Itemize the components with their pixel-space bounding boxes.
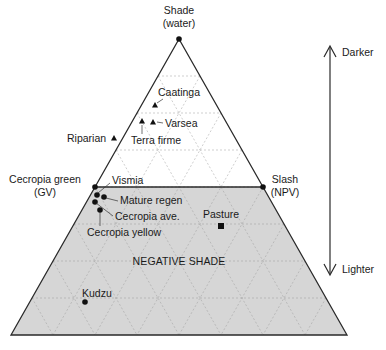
point-label: Pasture [203, 208, 239, 220]
point-label: Cecropia ave. [115, 210, 180, 222]
circle-marker-icon [101, 194, 107, 200]
point-label: Vismia [112, 174, 143, 186]
vertex-dot-icon [260, 184, 266, 190]
vertex-label: (NPV) [271, 186, 300, 198]
circle-marker-icon [82, 299, 88, 305]
circle-marker-icon [97, 207, 103, 213]
vertex-gv: Cecropia green(GV) [9, 173, 98, 198]
triangle-marker-icon [139, 118, 145, 124]
ternary-diagram: NEGATIVE SHADE Shade(water)Cecropia gree… [0, 0, 386, 350]
point-riparian: Riparian [67, 132, 117, 144]
point-label: Cecropia yellow [87, 226, 162, 238]
vertex-label: (GV) [34, 186, 56, 198]
vertex-shade: Shade(water) [163, 4, 196, 42]
darker-label: Darker [342, 46, 374, 58]
vertex-label: Cecropia green [9, 173, 81, 185]
leader-line [157, 99, 163, 103]
vertex-dot-icon [92, 184, 98, 190]
brightness-axis: Darker Lighter [324, 46, 375, 275]
vertex-label: Shade [164, 4, 195, 16]
point-varsea: Varsea [150, 117, 198, 129]
negative-shade-label: NEGATIVE SHADE [133, 255, 226, 267]
point-caatinga: Caatinga [152, 86, 200, 108]
point-label: Varsea [165, 117, 198, 129]
vertex-label: (water) [163, 17, 196, 29]
triangle-marker-icon [150, 119, 156, 125]
triangle-marker-icon [111, 135, 117, 141]
endmember-vertices: Shade(water)Cecropia green(GV)Slash(NPV) [9, 4, 299, 198]
point-label: Kudzu [82, 287, 112, 299]
lighter-label: Lighter [342, 263, 375, 275]
point-label: Riparian [67, 132, 106, 144]
leader-line [157, 122, 163, 123]
vertex-dot-icon [176, 36, 182, 42]
vertex-label: Slash [272, 173, 298, 185]
circle-marker-icon [94, 192, 100, 198]
region-label: NEGATIVE SHADE [133, 255, 226, 267]
point-label: Mature regen [120, 194, 183, 206]
point-label: Terra firme [131, 134, 181, 146]
point-label: Caatinga [158, 86, 200, 98]
square-marker-icon [218, 223, 224, 229]
